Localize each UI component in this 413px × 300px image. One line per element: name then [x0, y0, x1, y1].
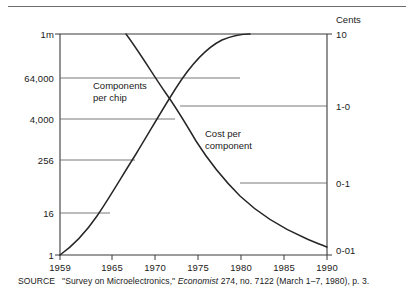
x-axis-ticks: [60, 255, 327, 260]
x-tick-1965: 1965: [101, 262, 123, 273]
cost-label-line1: Cost per: [205, 128, 241, 139]
y-right-tick-1: 1-0: [336, 101, 350, 112]
y-axis-left-ticks: [55, 34, 60, 255]
y-left-tick-3: 256: [38, 155, 54, 166]
x-tick-1990: 1990: [316, 262, 338, 273]
components-label-line2: per chip: [93, 92, 127, 103]
chart-plot-area: 1m 64,000 4,000 256 16 1 Cents 10 1-0 0-…: [0, 0, 413, 268]
y-left-tick-5: 1: [49, 250, 54, 261]
y-axis-right-ticks: [327, 34, 332, 255]
source-italic-title: Economist: [178, 276, 219, 286]
x-tick-1975: 1975: [187, 262, 209, 273]
right-gridlines: [180, 106, 327, 183]
y-right-tick-2: 0-1: [336, 178, 350, 189]
y-left-tick-2: 4,000: [30, 114, 54, 125]
cost-label-line2: component: [205, 140, 252, 151]
y-left-tick-4: 16: [43, 208, 54, 219]
y-right-tick-0: 10: [336, 29, 347, 40]
figure-container: 1m 64,000 4,000 256 16 1 Cents 10 1-0 0-…: [0, 0, 413, 300]
y-left-tick-0: 1m: [41, 29, 54, 40]
y-left-tick-1: 64,000: [24, 73, 54, 84]
series-annotation-cost-per-component: Cost per component: [205, 128, 252, 152]
source-text-before: "Survey on Microelectronics,": [62, 276, 175, 286]
x-tick-1980: 1980: [230, 262, 252, 273]
x-tick-1959: 1959: [49, 262, 71, 273]
source-prefix: SOURCE: [18, 276, 55, 286]
series-annotation-components-per-chip: Components per chip: [93, 80, 147, 104]
components-label-line1: Components: [93, 80, 147, 91]
source-text-after: 274, no. 7122 (March 1–7, 1980), p. 3.: [221, 276, 370, 286]
x-tick-1970: 1970: [144, 262, 166, 273]
y-right-axis-title: Cents: [336, 14, 361, 25]
x-tick-1985: 1985: [273, 262, 295, 273]
source-caption: SOURCE"Survey on Microelectronics," Econ…: [18, 276, 408, 286]
plot-frame: [60, 34, 327, 255]
y-right-tick-3: 0-01: [336, 245, 355, 256]
